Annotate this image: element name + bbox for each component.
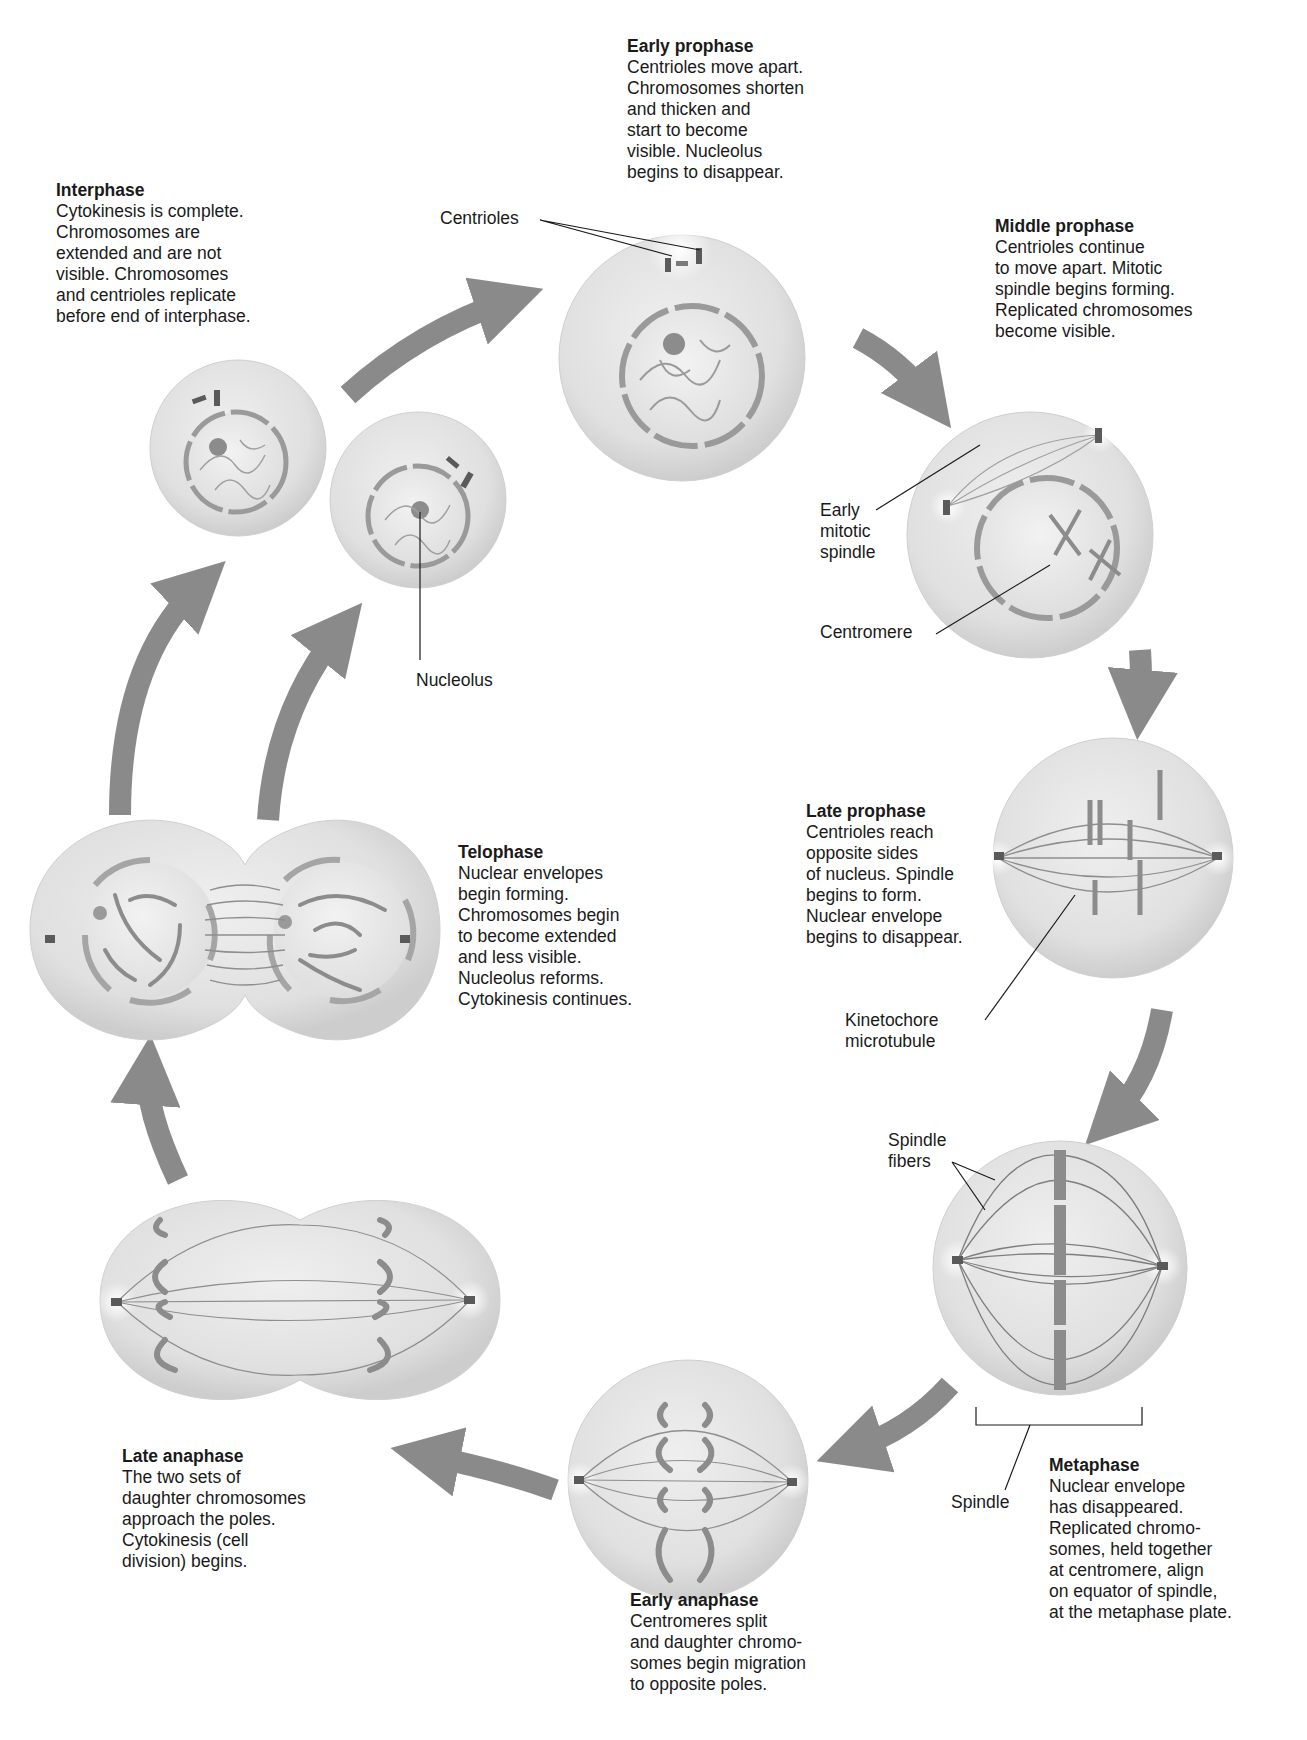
caption-interphase: Interphase Cytokinesis is complete. Chro… bbox=[56, 180, 251, 327]
caption-line: Replicated chromosomes bbox=[995, 300, 1192, 321]
caption-line: somes begin migration bbox=[630, 1653, 806, 1674]
caption-line: Centrioles reach bbox=[806, 822, 963, 843]
label-line: spindle bbox=[820, 542, 875, 563]
caption-line: to opposite poles. bbox=[630, 1674, 806, 1695]
caption-line: and centrioles replicate bbox=[56, 285, 251, 306]
label-spindle: Spindle bbox=[951, 1492, 1009, 1513]
caption-line: begins to disappear. bbox=[806, 927, 963, 948]
caption-line: Centromeres split bbox=[630, 1611, 806, 1632]
telophase-cell bbox=[30, 820, 440, 1040]
metaphase-cell bbox=[933, 1141, 1187, 1395]
caption-line: and thicken and bbox=[627, 99, 804, 120]
caption-line: begin forming. bbox=[458, 884, 632, 905]
label-line: Early bbox=[820, 500, 875, 521]
middle-prophase-cell bbox=[907, 412, 1153, 658]
label-line: Kinetochore bbox=[845, 1010, 938, 1031]
arrow-late-anaphase-to-telophase bbox=[148, 1070, 178, 1180]
caption-line: visible. Chromosomes bbox=[56, 264, 251, 285]
caption-line: start to become bbox=[627, 120, 804, 141]
caption-line: to move apart. Mitotic bbox=[995, 258, 1192, 279]
caption-line: Nuclear envelope bbox=[806, 906, 963, 927]
caption-title: Early anaphase bbox=[630, 1590, 806, 1611]
caption-line: at the metaphase plate. bbox=[1049, 1602, 1232, 1623]
caption-title: Metaphase bbox=[1049, 1455, 1232, 1476]
arrow-telophase-to-interphase-right bbox=[268, 630, 340, 820]
caption-late-prophase: Late prophase Centrioles reach opposite … bbox=[806, 801, 963, 948]
interphase-cell-left bbox=[150, 360, 326, 536]
caption-title: Early prophase bbox=[627, 36, 804, 57]
label-kinetochore-microtubule: Kinetochore microtubule bbox=[845, 1010, 938, 1052]
caption-line: Centrioles continue bbox=[995, 237, 1192, 258]
caption-line: division) begins. bbox=[122, 1551, 306, 1572]
caption-line: and less visible. bbox=[458, 947, 632, 968]
label-early-mitotic-spindle: Early mitotic spindle bbox=[820, 500, 875, 563]
caption-late-anaphase: Late anaphase The two sets of daughter c… bbox=[122, 1446, 306, 1572]
caption-line: Nuclear envelope bbox=[1049, 1476, 1232, 1497]
caption-line: daughter chromosomes bbox=[122, 1488, 306, 1509]
caption-line: Chromosomes are bbox=[56, 222, 251, 243]
caption-line: Cytokinesis (cell bbox=[122, 1530, 306, 1551]
label-line: mitotic bbox=[820, 521, 875, 542]
interphase-cell-right bbox=[330, 412, 506, 588]
caption-line: The two sets of bbox=[122, 1467, 306, 1488]
caption-title: Late anaphase bbox=[122, 1446, 306, 1467]
caption-title: Late prophase bbox=[806, 801, 963, 822]
late-prophase-cell bbox=[980, 738, 1236, 978]
caption-title: Interphase bbox=[56, 180, 251, 201]
caption-title: Middle prophase bbox=[995, 216, 1192, 237]
late-anaphase-cell bbox=[97, 1200, 500, 1399]
arrow-interphase-to-early-prophase bbox=[348, 300, 510, 395]
caption-line: at centromere, align bbox=[1049, 1560, 1232, 1581]
caption-line: and daughter chromo- bbox=[630, 1632, 806, 1653]
caption-line: Chromosomes shorten bbox=[627, 78, 804, 99]
caption-line: spindle begins forming. bbox=[995, 279, 1192, 300]
caption-middle-prophase: Middle prophase Centrioles continue to m… bbox=[995, 216, 1192, 342]
arrow-metaphase-to-early-anaphase bbox=[850, 1385, 950, 1450]
caption-line: on equator of spindle, bbox=[1049, 1581, 1232, 1602]
caption-line: somes, held together bbox=[1049, 1539, 1232, 1560]
label-spindle-fibers: Spindle fibers bbox=[888, 1130, 946, 1172]
early-prophase-cell bbox=[559, 218, 805, 481]
arrow-telophase-to-interphase-left bbox=[120, 585, 200, 815]
caption-line: of nucleus. Spindle bbox=[806, 864, 963, 885]
caption-line: extended and are not bbox=[56, 243, 251, 264]
caption-line: become visible. bbox=[995, 321, 1192, 342]
caption-line: Replicated chromo- bbox=[1049, 1518, 1232, 1539]
caption-line: Nucleolus reforms. bbox=[458, 968, 632, 989]
caption-line: Cytokinesis is complete. bbox=[56, 201, 251, 222]
caption-line: begins to disappear. bbox=[627, 162, 804, 183]
caption-line: Nuclear envelopes bbox=[458, 863, 632, 884]
caption-title: Telophase bbox=[458, 842, 632, 863]
arrow-middle-to-late-prophase bbox=[1140, 650, 1141, 705]
label-nucleolus: Nucleolus bbox=[416, 670, 493, 691]
caption-line: begins to form. bbox=[806, 885, 963, 906]
early-anaphase-cell bbox=[562, 1360, 810, 1600]
caption-line: Cytokinesis continues. bbox=[458, 989, 632, 1010]
caption-line: Centrioles move apart. bbox=[627, 57, 804, 78]
label-centromere: Centromere bbox=[820, 622, 912, 643]
label-centrioles: Centrioles bbox=[440, 208, 519, 229]
caption-telophase: Telophase Nuclear envelopes begin formin… bbox=[458, 842, 632, 1010]
caption-metaphase: Metaphase Nuclear envelope has disappear… bbox=[1049, 1455, 1232, 1623]
label-line: Spindle bbox=[888, 1130, 946, 1151]
arrow-early-to-late-anaphase bbox=[425, 1455, 555, 1490]
arrow-early-to-middle-prophase bbox=[858, 338, 930, 400]
label-line: microtubule bbox=[845, 1031, 938, 1052]
caption-line: before end of interphase. bbox=[56, 306, 251, 327]
caption-line: approach the poles. bbox=[122, 1509, 306, 1530]
caption-early-anaphase: Early anaphase Centromeres split and dau… bbox=[630, 1590, 806, 1695]
arrow-late-prophase-to-metaphase bbox=[1110, 1010, 1162, 1120]
caption-line: visible. Nucleolus bbox=[627, 141, 804, 162]
caption-line: has disappeared. bbox=[1049, 1497, 1232, 1518]
label-line: fibers bbox=[888, 1151, 946, 1172]
caption-line: opposite sides bbox=[806, 843, 963, 864]
caption-line: Chromosomes begin bbox=[458, 905, 632, 926]
caption-early-prophase: Early prophase Centrioles move apart. Ch… bbox=[627, 36, 804, 183]
caption-line: to become extended bbox=[458, 926, 632, 947]
